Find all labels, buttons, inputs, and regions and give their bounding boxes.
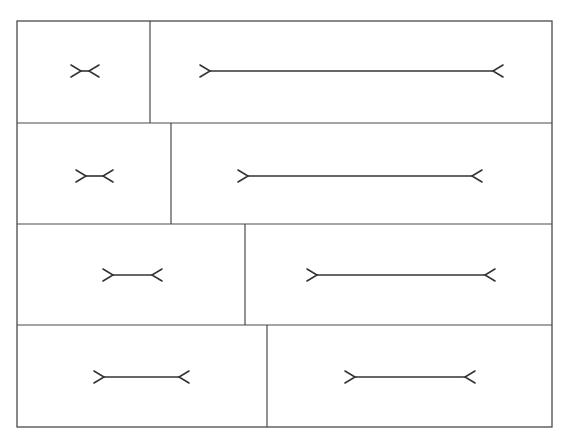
fin-right <box>152 269 162 281</box>
fin-left <box>238 170 248 182</box>
figure-left <box>71 65 99 77</box>
fin-right <box>472 170 482 182</box>
row-1 <box>71 21 503 123</box>
fin-left <box>76 170 86 182</box>
fin-left <box>71 65 81 77</box>
fin-right <box>485 269 495 281</box>
fin-left <box>103 269 113 281</box>
row-3 <box>17 224 552 325</box>
figure-right <box>200 65 503 77</box>
fin-left <box>345 371 355 383</box>
row-2 <box>17 123 552 224</box>
fin-left <box>200 65 210 77</box>
fin-right <box>493 65 503 77</box>
figure-right <box>307 269 495 281</box>
rows-layer <box>17 21 552 427</box>
fin-left <box>94 371 104 383</box>
figure-left <box>76 170 113 182</box>
fin-right <box>465 371 475 383</box>
fin-right <box>89 65 99 77</box>
figure-right <box>238 170 482 182</box>
fin-right <box>103 170 113 182</box>
figure-left <box>103 269 162 281</box>
muller-lyer-diagram <box>0 0 568 444</box>
figure-right <box>345 371 475 383</box>
fin-left <box>307 269 317 281</box>
figure-left <box>94 371 189 383</box>
row-4 <box>17 325 552 427</box>
fin-right <box>179 371 189 383</box>
